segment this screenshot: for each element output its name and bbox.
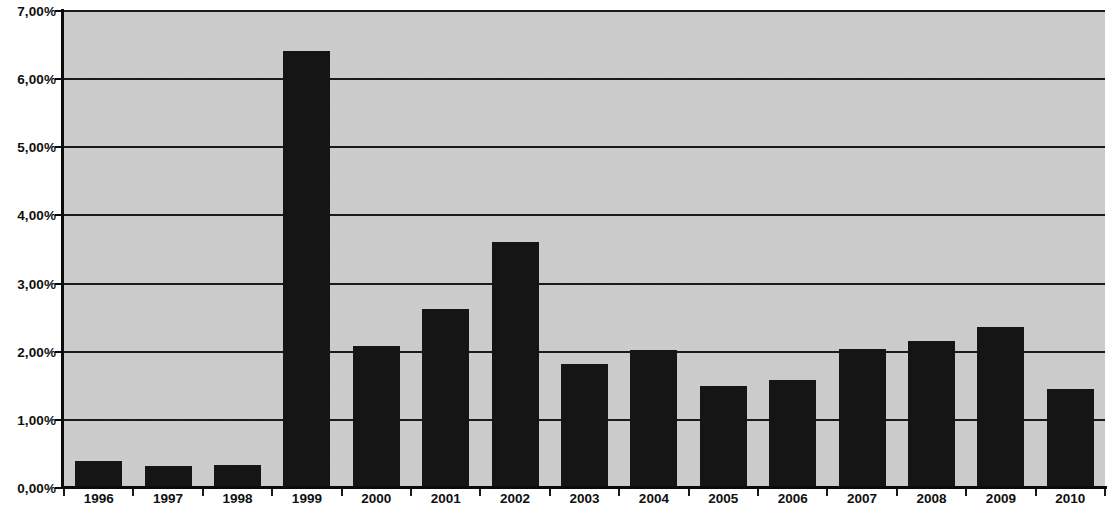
x-axis-tick-mark — [896, 489, 898, 496]
x-axis-tick-mark — [1104, 489, 1106, 496]
x-axis-tick-label: 2009 — [986, 491, 1016, 506]
y-axis-tick-label: 0,00% — [17, 481, 56, 496]
y-axis-tick-mark — [55, 351, 64, 353]
bar-2005 — [700, 386, 747, 488]
bar-2009 — [977, 327, 1024, 488]
gridline — [64, 10, 1105, 12]
y-axis-line — [61, 9, 64, 489]
x-axis-tick-label: 2006 — [778, 491, 808, 506]
gridline — [64, 78, 1105, 80]
y-axis-tick-mark — [55, 419, 64, 421]
x-axis-tick-mark — [688, 489, 690, 496]
y-axis-tick-label: 4,00% — [17, 208, 56, 223]
bar-2010 — [1047, 389, 1094, 488]
x-axis-line — [61, 486, 1107, 489]
x-axis-tick-label: 1997 — [153, 491, 183, 506]
x-axis-tick-label: 2003 — [569, 491, 599, 506]
y-axis-tick-label: 5,00% — [17, 140, 56, 155]
gridline — [64, 214, 1105, 216]
bar-chart: 0,00%1,00%2,00%3,00%4,00%5,00%6,00%7,00%… — [0, 0, 1107, 511]
y-axis-tick-label: 7,00% — [17, 4, 56, 19]
bar-2007 — [839, 349, 886, 488]
x-axis-tick-mark — [132, 489, 134, 496]
x-axis-tick-mark — [826, 489, 828, 496]
x-axis-tick-label: 2008 — [916, 491, 946, 506]
x-axis-tick-mark — [271, 489, 273, 496]
x-axis-tick-label: 2001 — [431, 491, 461, 506]
bar-1996 — [75, 461, 122, 488]
x-axis-tick-mark — [757, 489, 759, 496]
bar-2000 — [353, 346, 400, 488]
x-axis-tick-mark — [1035, 489, 1037, 496]
x-axis-tick-label: 2007 — [847, 491, 877, 506]
y-axis-tick-mark — [55, 146, 64, 148]
bar-1998 — [214, 465, 261, 488]
x-axis-tick-label: 2010 — [1055, 491, 1085, 506]
x-axis-tick-mark — [410, 489, 412, 496]
gridline — [64, 283, 1105, 285]
x-axis-tick-mark — [549, 489, 551, 496]
x-axis: 1996199719981999200020012002200320042005… — [64, 491, 1105, 511]
bar-2006 — [769, 380, 816, 488]
x-axis-tick-label: 1998 — [222, 491, 252, 506]
gridline — [64, 146, 1105, 148]
bar-2004 — [630, 350, 677, 488]
y-axis-tick-label: 3,00% — [17, 276, 56, 291]
bar-2008 — [908, 341, 955, 488]
plot-area — [64, 11, 1105, 488]
bar-2001 — [422, 309, 469, 488]
bar-1999 — [283, 51, 330, 488]
y-axis: 0,00%1,00%2,00%3,00%4,00%5,00%6,00%7,00% — [0, 0, 60, 511]
x-axis-tick-label: 2004 — [639, 491, 669, 506]
y-axis-tick-label: 6,00% — [17, 72, 56, 87]
x-axis-tick-mark — [965, 489, 967, 496]
y-axis-tick-label: 1,00% — [17, 412, 56, 427]
bar-2003 — [561, 364, 608, 488]
x-axis-tick-mark — [341, 489, 343, 496]
y-axis-tick-label: 2,00% — [17, 344, 56, 359]
x-axis-tick-label: 1999 — [292, 491, 322, 506]
bar-2002 — [492, 242, 539, 488]
x-axis-tick-label: 2005 — [708, 491, 738, 506]
bar-1997 — [145, 466, 192, 488]
y-axis-tick-mark — [55, 283, 64, 285]
x-axis-tick-mark — [618, 489, 620, 496]
x-axis-tick-label: 2002 — [500, 491, 530, 506]
x-axis-tick-label: 1996 — [84, 491, 114, 506]
x-axis-tick-mark — [479, 489, 481, 496]
y-axis-tick-mark — [55, 10, 64, 12]
x-axis-tick-mark — [63, 489, 65, 496]
y-axis-tick-mark — [55, 214, 64, 216]
x-axis-tick-mark — [202, 489, 204, 496]
x-axis-tick-label: 2000 — [361, 491, 391, 506]
y-axis-tick-mark — [55, 78, 64, 80]
